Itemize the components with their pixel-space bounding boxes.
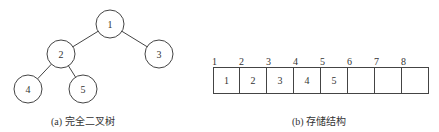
svg-text:2: 2 <box>59 49 64 60</box>
array-cell: 3 <box>267 67 294 94</box>
tree-node: 3 <box>145 40 173 68</box>
array-index: 2 <box>239 56 266 67</box>
tree-edge <box>122 31 147 46</box>
array-index: 1 <box>212 56 239 67</box>
tree-node: 1 <box>96 10 124 38</box>
svg-text:1: 1 <box>108 19 113 30</box>
svg-text:3: 3 <box>157 49 162 60</box>
svg-text:4: 4 <box>26 84 31 95</box>
array-cell <box>348 67 375 94</box>
tree-edge <box>73 31 98 46</box>
array-cell <box>402 67 429 94</box>
tree-node: 2 <box>47 40 75 68</box>
tree-node: 5 <box>69 75 97 103</box>
array-cell: 5 <box>321 67 348 94</box>
array-cell: 2 <box>240 67 267 94</box>
tree-edge <box>38 64 52 79</box>
svg-text:5: 5 <box>81 84 86 95</box>
array-cell: 4 <box>294 67 321 94</box>
array-cell: 1 <box>213 67 240 94</box>
array-index: 7 <box>374 56 401 67</box>
tree-edge <box>68 66 75 77</box>
array-index: 8 <box>401 56 428 67</box>
array-index: 5 <box>320 56 347 67</box>
array-index: 6 <box>347 56 374 67</box>
storage-caption: (b) 存储结构 <box>292 113 346 128</box>
array-cell <box>375 67 402 94</box>
tree-caption: (a) 完全二叉树 <box>51 113 115 128</box>
array-index: 3 <box>266 56 293 67</box>
array-index: 4 <box>293 56 320 67</box>
tree-node: 4 <box>14 75 42 103</box>
